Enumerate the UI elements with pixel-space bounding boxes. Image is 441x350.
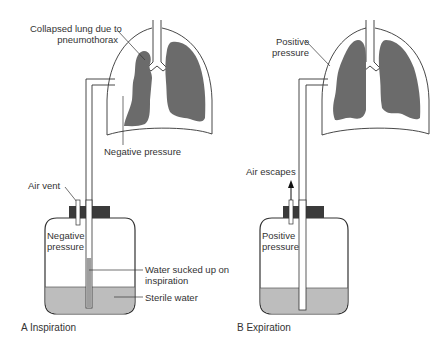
leader-air-vent xyxy=(65,187,77,202)
water-in-tube xyxy=(87,258,92,308)
label-positive-jar-line2: pressure xyxy=(262,241,299,252)
label-negative-line1: Negative xyxy=(47,230,85,241)
label-positive-pressure-chest: Positive pressure xyxy=(272,36,309,58)
tube-in-jar-b xyxy=(299,200,306,310)
label-water-sucked: Water sucked up on inspiration xyxy=(145,264,229,286)
label-collapsed-line2: pneumothorax xyxy=(30,34,118,45)
label-collapsed-line1: Collapsed lung due to xyxy=(30,23,118,34)
label-positive-pressure-jar: Positive pressure xyxy=(262,230,299,252)
label-negative-pressure-jar: Negative pressure xyxy=(47,230,85,252)
air-vent-a xyxy=(76,200,80,225)
label-positive-chest-line2: pressure xyxy=(272,47,309,58)
label-positive-jar-line1: Positive xyxy=(262,230,299,241)
label-negative-line2: pressure xyxy=(47,241,85,252)
label-water-sucked-line2: inspiration xyxy=(145,275,229,286)
label-water-sucked-line1: Water sucked up on xyxy=(145,264,229,275)
caption-b: B Expiration xyxy=(237,322,291,333)
label-positive-chest-line1: Positive xyxy=(272,36,309,47)
label-sterile-water: Sterile water xyxy=(145,292,198,303)
arrow-up-icon xyxy=(288,180,294,188)
label-air-vent: Air vent xyxy=(28,180,60,191)
label-air-escapes: Air escapes xyxy=(246,166,296,177)
underwater-seal-drainage-diagram xyxy=(0,0,441,350)
air-vent-b xyxy=(289,200,293,224)
label-negative-pressure-chest: Negative pressure xyxy=(104,146,181,157)
label-collapsed-lung: Collapsed lung due to pneumothorax xyxy=(30,23,118,45)
caption-a: A Inspiration xyxy=(21,322,76,333)
